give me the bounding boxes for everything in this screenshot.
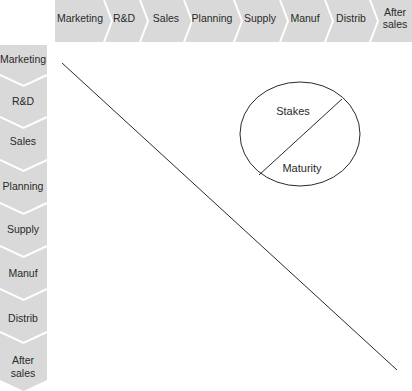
header-item-sales: Sales xyxy=(153,12,179,24)
header-value-chain: Marketing R&D Sales Planning Supply Manu… xyxy=(55,0,412,42)
header-item-distrib: Distrib xyxy=(336,12,366,24)
header-item-planning: Planning xyxy=(192,12,233,24)
sidebar-item-supply: Supply xyxy=(7,223,40,235)
header-item-manuf: Manuf xyxy=(290,12,319,24)
legend-maturity-label: Maturity xyxy=(282,162,322,174)
header-item-marketing: Marketing xyxy=(57,12,103,24)
header-item-after-sales-line1: After xyxy=(384,6,407,18)
sidebar-value-chain: Marketing R&D Sales Planning Supply Manu… xyxy=(0,45,47,391)
sidebar-item-manuf: Manuf xyxy=(8,267,37,279)
legend-stakes-label: Stakes xyxy=(276,105,310,117)
sidebar-item-marketing: Marketing xyxy=(0,53,46,65)
sidebar-item-distrib: Distrib xyxy=(8,312,38,324)
sidebar-item-sales: Sales xyxy=(10,135,36,147)
header-item-supply: Supply xyxy=(244,12,277,24)
sidebar-item-rd: R&D xyxy=(12,95,35,107)
header-item-after-sales-line2: sales xyxy=(383,18,408,30)
sidebar-item-after-sales-line2: sales xyxy=(11,367,36,379)
header-item-rd: R&D xyxy=(113,12,136,24)
stakes-maturity-legend: Stakes Maturity xyxy=(240,82,360,186)
sidebar-item-planning: Planning xyxy=(3,180,44,192)
sidebar-item-after-sales-line1: After xyxy=(12,354,35,366)
diagonal-line xyxy=(62,63,397,370)
value-chain-matrix-diagram: Marketing R&D Sales Planning Supply Manu… xyxy=(0,0,412,391)
